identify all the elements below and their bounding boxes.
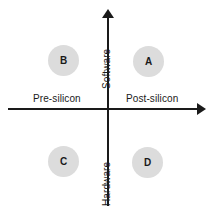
- quadrant-bubble-c-label: C: [60, 156, 67, 167]
- quadrant-bubble-d[interactable]: D: [132, 147, 163, 178]
- vertical-axis-arrowhead-icon: [102, 9, 114, 18]
- axis-label-pre-silicon: Pre-silicon: [33, 93, 81, 104]
- quadrant-diagram: Pre-silicon Post-silicon Software Hardwa…: [0, 0, 214, 214]
- axis-label-post-silicon: Post-silicon: [126, 93, 178, 104]
- axis-label-hardware: Hardware: [101, 162, 112, 206]
- horizontal-axis-line: [8, 108, 198, 110]
- quadrant-bubble-a-label: A: [145, 56, 152, 67]
- quadrant-bubble-a[interactable]: A: [133, 46, 164, 77]
- quadrant-bubble-d-label: D: [144, 157, 151, 168]
- axis-label-software: Software: [101, 49, 112, 89]
- quadrant-bubble-b-label: B: [60, 55, 67, 66]
- quadrant-bubble-b[interactable]: B: [48, 45, 79, 76]
- quadrant-bubble-c[interactable]: C: [48, 146, 79, 177]
- horizontal-axis-arrowhead-icon: [197, 103, 206, 115]
